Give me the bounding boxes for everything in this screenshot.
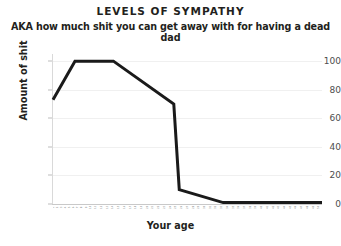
x-tick-label: 26: [181, 206, 184, 209]
x-tick-label: 11: [96, 206, 99, 209]
y-tick-mark: [48, 61, 52, 62]
x-tick-label: 20: [147, 206, 150, 209]
y-tick-mark: [48, 204, 52, 205]
x-tick-label: 30: [204, 206, 207, 209]
y-tick-mark: [48, 89, 52, 90]
x-tick-label: 23: [164, 206, 167, 209]
x-tick-label: 35: [233, 206, 236, 209]
x-tick-label: 50: [319, 206, 322, 209]
x-tick-label: 39: [256, 206, 259, 209]
x-tick-label: 25: [176, 206, 179, 209]
x-tick-label: 15: [119, 206, 122, 209]
y-axis-label: Amount of shit: [18, 6, 29, 156]
x-tick-label: 45: [290, 206, 293, 209]
x-tick-label: 18: [136, 206, 139, 209]
x-tick-label: 8: [81, 206, 84, 208]
x-tick-label: 22: [159, 206, 162, 209]
x-tick-label: 42: [273, 206, 276, 209]
x-tick-label: 24: [170, 206, 173, 209]
x-tick-label: 14: [113, 206, 116, 209]
x-tick-label: 21: [153, 206, 156, 209]
x-tick-label: 28: [193, 206, 196, 209]
y-tick-mark: [48, 175, 52, 176]
x-tick-label: 43: [279, 206, 282, 209]
x-tick-label: 37: [244, 206, 247, 209]
x-tick-label: 29: [199, 206, 202, 209]
x-tick-label: 46: [296, 206, 299, 209]
x-tick-label: 19: [141, 206, 144, 209]
y-tick-mark: [48, 118, 52, 119]
chart-title: LEVELS OF SYMPATHY: [0, 5, 341, 17]
x-tick-label: 17: [130, 206, 133, 209]
x-tick-label: 10: [90, 206, 93, 209]
x-axis-ticks: 1234567891011121314151617181920212223242…: [53, 206, 322, 215]
x-tick-label: 40: [261, 206, 264, 209]
chart-subtitle: AKA how much shit you can get away with …: [0, 21, 341, 43]
x-axis-label: Your age: [0, 220, 341, 231]
x-tick-label: 12: [101, 206, 104, 209]
x-tick-label: 49: [313, 206, 316, 209]
x-tick-label: 33: [221, 206, 224, 209]
chart-container: LEVELS OF SYMPATHY AKA how much shit you…: [0, 0, 341, 246]
x-tick-label: 36: [239, 206, 242, 209]
x-tick-label: 31: [210, 206, 213, 209]
x-tick-label: 38: [250, 206, 253, 209]
sympathy-line: [53, 61, 322, 202]
x-tick-label: 13: [107, 206, 110, 209]
x-tick-label: 44: [284, 206, 287, 209]
x-tick-label: 48: [307, 206, 310, 209]
x-tick-label: 9: [85, 206, 88, 208]
data-line-series: [53, 54, 322, 205]
x-tick-label: 47: [302, 206, 305, 209]
y-tick-mark: [48, 146, 52, 147]
x-tick-label: 34: [227, 206, 230, 209]
x-tick-label: 41: [267, 206, 270, 209]
x-tick-label: 32: [216, 206, 219, 209]
x-tick-label: 27: [187, 206, 190, 209]
x-tick-label: 16: [124, 206, 127, 209]
